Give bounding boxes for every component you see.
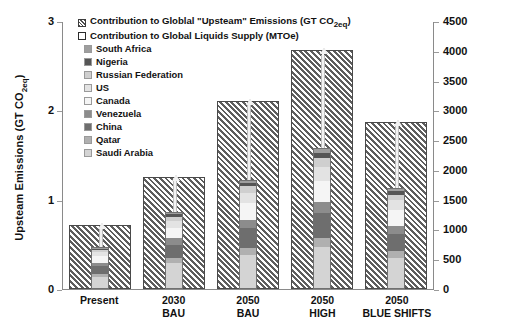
stack-segment-canada <box>314 181 330 202</box>
chart-legend: Contribution to Globlal "Upsteam" Emissi… <box>78 16 351 160</box>
arrow-shaft <box>99 229 103 248</box>
x-axis-label-line1: 2030 <box>162 294 185 306</box>
legend-item-venezuela[interactable]: Venezuela <box>78 108 351 121</box>
y-tick-left-1: 1 <box>28 195 54 206</box>
legend-item-south-africa[interactable]: South Africa <box>78 42 351 55</box>
legend-swatch-icon <box>84 71 92 79</box>
legend-item-contribution-to-globlal-upsteam-emissions-gt-co2eq-[interactable]: Contribution to Globlal "Upsteam" Emissi… <box>78 16 351 29</box>
x-axis-label-line2: BAU <box>136 307 210 320</box>
stack-segment-china <box>314 213 330 238</box>
x-axis-label-3: 2050HIGH <box>285 294 359 334</box>
legend-label: Contribution to Global Liquids Supply (M… <box>90 31 299 41</box>
y-axis-left-title-post: ) <box>13 74 25 78</box>
stack-segment-qatar <box>240 248 256 255</box>
x-axis-label-line1: 2050 <box>236 294 259 306</box>
arrow-shaft <box>395 126 399 188</box>
legend-swatch-icon <box>84 123 92 131</box>
y-axis-left-title-subscript: 2eq <box>20 78 29 92</box>
y-tickmark-right-0 <box>434 290 439 291</box>
x-axis-label-1: 2030BAU <box>136 294 210 334</box>
stack-segment-us <box>388 200 404 210</box>
x-axis-label-2: 2050BAU <box>211 294 285 334</box>
y-tick-left-2: 2 <box>28 105 54 116</box>
y-axis-left-title-pre: Upsteam Emissions (GT CO <box>13 92 25 241</box>
y-tick-right-1000: 1000 <box>443 224 477 235</box>
y-tickmark-right-1500 <box>434 201 439 202</box>
stack-segment-qatar <box>314 238 330 247</box>
legend-swatch-icon <box>78 32 86 40</box>
stack-segment-venezuela <box>388 226 404 234</box>
legend-item-contribution-to-global-liquids-supply-mtoe-[interactable]: Contribution to Global Liquids Supply (M… <box>78 29 351 42</box>
x-axis-label-4: 2050BLUE SHIFTS <box>360 294 434 334</box>
y-tickmark-right-3000 <box>434 111 439 112</box>
stack-segment-canada <box>388 210 404 225</box>
legend-item-saudi-arabia[interactable]: Saudi Arabia <box>78 147 351 160</box>
arrow-head <box>98 223 106 229</box>
legend-swatch-icon <box>84 110 92 118</box>
y-tickmark-right-2500 <box>434 141 439 142</box>
stack-segment-china <box>388 234 404 252</box>
y-tickmark-right-4000 <box>434 52 439 53</box>
x-axis-label-line1: Present <box>80 294 119 306</box>
y-tick-right-2000: 2000 <box>443 165 477 176</box>
liquids-supply-stack[interactable] <box>387 188 405 289</box>
arrow-head <box>394 120 402 126</box>
legend-label: Contribution to Globlal "Upsteam" Emissi… <box>90 16 351 30</box>
legend-swatch-icon <box>84 97 92 105</box>
y-tick-right-1500: 1500 <box>443 195 477 206</box>
legend-item-russian-federation[interactable]: Russian Federation <box>78 68 351 81</box>
legend-swatch-icon <box>84 58 92 66</box>
stack-segment-china <box>166 245 182 259</box>
stack-segment-us <box>166 221 182 228</box>
legend-label: Russian Federation <box>96 70 183 80</box>
stack-segment-us <box>240 193 256 204</box>
bar-group-2050-blue-shifts[interactable] <box>359 22 433 289</box>
y-axis-left-title: Upsteam Emissions (GT CO2eq) <box>13 73 28 243</box>
liquids-supply-stack[interactable] <box>91 247 109 289</box>
legend-item-us[interactable]: US <box>78 81 351 94</box>
legend-label: Qatar <box>96 135 121 145</box>
legend-item-canada[interactable]: Canada <box>78 95 351 108</box>
arrow-shaft <box>173 181 177 212</box>
legend-swatch-icon <box>84 136 92 144</box>
stack-segment-saudi-arabia <box>240 255 256 288</box>
legend-swatch-icon <box>84 149 92 157</box>
y-tick-right-500: 500 <box>443 254 477 265</box>
arrow-head <box>172 175 180 181</box>
y-tickmark-right-2000 <box>434 171 439 172</box>
legend-label: Canada <box>96 96 130 106</box>
legend-item-nigeria[interactable]: Nigeria <box>78 55 351 68</box>
legend-label: US <box>96 83 109 93</box>
y-tick-right-3500: 3500 <box>443 76 477 87</box>
chart-root: Upsteam Emissions (GT CO2eq) Liquids Sup… <box>0 0 513 335</box>
legend-label: South Africa <box>96 44 151 54</box>
legend-label: Venezuela <box>96 109 141 119</box>
y-tick-right-2500: 2500 <box>443 135 477 146</box>
y-tickmark-right-4500 <box>434 22 439 23</box>
y-tick-left-0: 0 <box>28 284 54 295</box>
x-axis-label-line2: BLUE SHIFTS <box>360 307 434 320</box>
x-axis-label-line2: BAU <box>211 307 285 320</box>
y-tick-left-3: 3 <box>28 16 54 27</box>
stack-segment-venezuela <box>314 202 330 213</box>
x-axis-label-line1: 2050 <box>385 294 408 306</box>
stack-segment-china <box>92 266 108 275</box>
stack-segment-saudi-arabia <box>92 277 108 288</box>
legend-subscript: 2eq <box>334 20 348 29</box>
stack-segment-canada <box>166 228 182 238</box>
stack-segment-venezuela <box>240 220 256 229</box>
legend-swatch-icon <box>84 45 92 53</box>
y-tickmark-right-1000 <box>434 230 439 231</box>
legend-item-qatar[interactable]: Qatar <box>78 134 351 147</box>
y-tick-right-0: 0 <box>443 284 477 295</box>
liquids-supply-stack[interactable] <box>239 180 257 289</box>
legend-label: Saudi Arabia <box>96 148 153 158</box>
legend-label: Nigeria <box>96 57 128 67</box>
legend-item-china[interactable]: China <box>78 121 351 134</box>
liquids-supply-stack[interactable] <box>313 148 331 289</box>
liquids-supply-stack[interactable] <box>165 212 183 289</box>
y-tickmark-right-3500 <box>434 82 439 83</box>
y-tickmark-left-0 <box>57 290 62 291</box>
y-tickmark-right-500 <box>434 260 439 261</box>
stack-segment-us <box>314 167 330 181</box>
